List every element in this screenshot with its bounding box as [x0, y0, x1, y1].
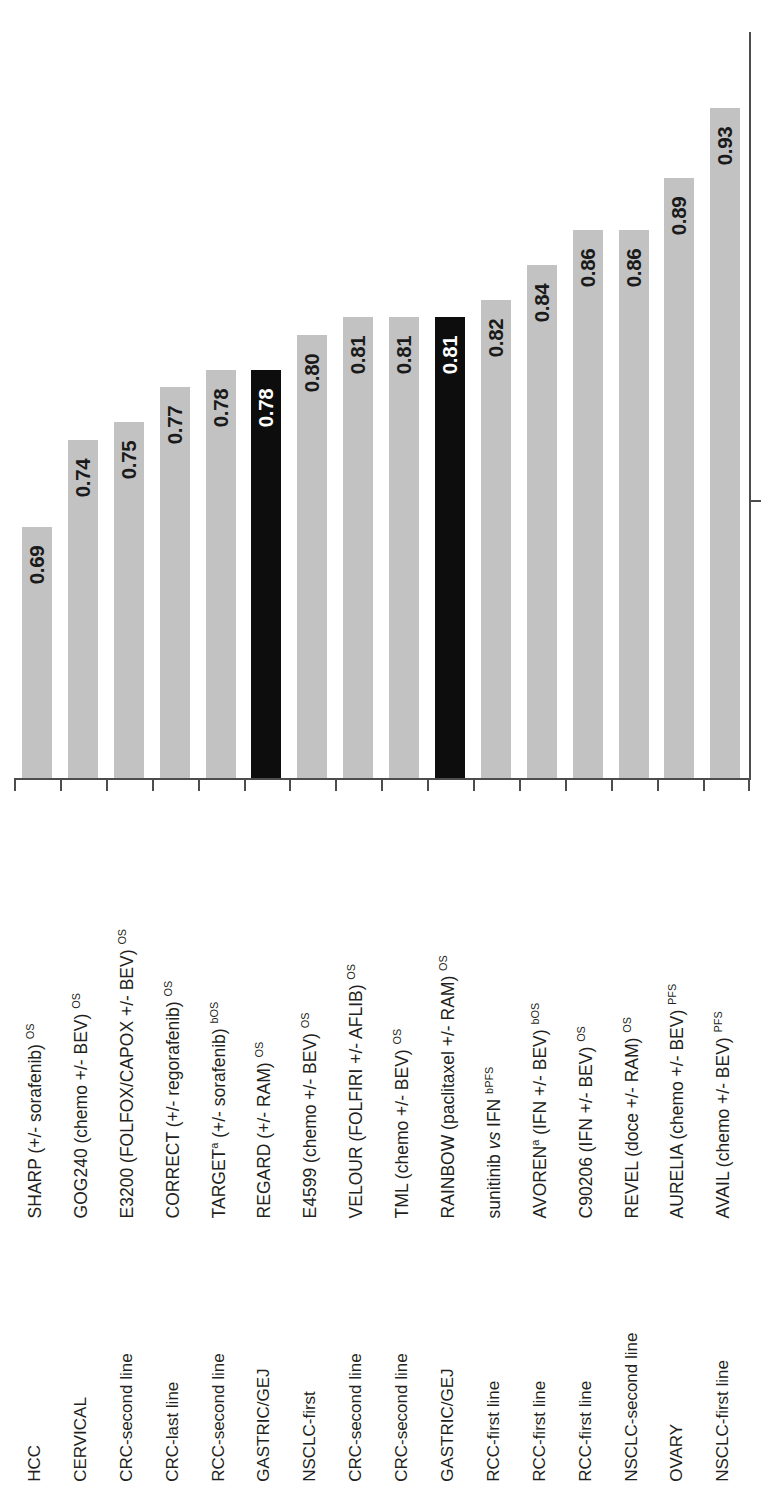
- axis-tick: [657, 780, 659, 791]
- bar[interactable]: 0.86: [619, 230, 649, 780]
- rotated-text-wrapper: HCC: [14, 1228, 60, 1486]
- hazard-ratio-bar-chart: 0.690.740.750.770.780.780.800.810.810.81…: [0, 0, 775, 1489]
- axis-tick: [748, 780, 750, 791]
- bar-highlighted[interactable]: 0.78: [251, 370, 281, 780]
- tumor-label-slot: NSCLC-first: [289, 1228, 335, 1486]
- bar-slot: 0.78: [198, 38, 244, 780]
- tumor-type-label: RCC-second line: [210, 1354, 228, 1483]
- rotated-text-wrapper: RAINBOW (paclitaxel +/- RAM) OS: [427, 792, 473, 1222]
- rotated-text-wrapper: RCC-second line: [198, 1228, 244, 1486]
- bar-value-label: 0.78: [209, 389, 233, 428]
- bar-value-label: 0.80: [300, 354, 324, 393]
- rotated-text-wrapper: NSCLC-first: [289, 1228, 335, 1486]
- bar-value-label: 0.93: [713, 127, 737, 166]
- bar[interactable]: 0.93: [710, 108, 740, 780]
- trial-label-slot: GOG240 (chemo +/- BEV) OS: [60, 792, 106, 1222]
- endpoint-marker: bOS: [529, 1002, 541, 1024]
- tumor-label-slot: CRC-second line: [335, 1228, 381, 1486]
- trial-label: GOG240 (chemo +/- BEV) OS: [72, 993, 90, 1218]
- footnote-marker: a: [529, 1139, 541, 1145]
- rotated-text-wrapper: SHARP (+/- sorafenib) OS: [14, 792, 60, 1222]
- rotated-text-wrapper: GASTRIC/GEJ: [243, 1228, 289, 1486]
- bar-value-label: 0.89: [667, 197, 691, 236]
- rotated-text-wrapper: REVEL (doce +/- RAM) OS: [611, 792, 657, 1222]
- bar[interactable]: 0.75: [114, 422, 144, 780]
- axis-tick: [703, 780, 705, 791]
- trial-label: AVAIL (chemo +/- BEV) PFS: [714, 1011, 732, 1218]
- rotated-text-wrapper: AVORENa (IFN +/- BEV) bOS: [519, 792, 565, 1222]
- trial-label-slot: RAINBOW (paclitaxel +/- RAM) OS: [427, 792, 473, 1222]
- rotated-text-wrapper: GOG240 (chemo +/- BEV) OS: [60, 792, 106, 1222]
- bar[interactable]: 0.80: [297, 335, 327, 780]
- trial-label-slot: TML (chemo +/- BEV) OS: [381, 792, 427, 1222]
- tumor-type-label: CRC-second line: [393, 1354, 411, 1483]
- tumor-label-slot: CRC-last line: [152, 1228, 198, 1486]
- rotated-text-wrapper: GASTRIC/GEJ: [427, 1228, 473, 1486]
- rotated-text-wrapper: AURELIA (chemo +/- BEV) PFS: [656, 792, 702, 1222]
- endpoint-marker: OS: [253, 1041, 265, 1057]
- value-axis-line: [749, 32, 751, 780]
- bar[interactable]: 0.69: [22, 527, 52, 780]
- trial-label-slot: REGARD (+/- RAM) OS: [243, 792, 289, 1222]
- rotated-text-wrapper: CORRECT (+/- regorafenib) OS: [152, 792, 198, 1222]
- value-axis-tick: [750, 500, 761, 502]
- tumor-label-slot: GASTRIC/GEJ: [243, 1228, 289, 1486]
- endpoint-marker: bPFS: [483, 1066, 495, 1093]
- bar-value-label: 0.84: [530, 284, 554, 323]
- bar[interactable]: 0.74: [68, 440, 98, 780]
- axis-tick: [106, 780, 108, 791]
- bar[interactable]: 0.81: [343, 317, 373, 780]
- rotated-text-wrapper: C90206 (IFN +/- BEV) OS: [565, 792, 611, 1222]
- tumor-type-label: RCC-first line: [531, 1381, 549, 1482]
- tumor-label-slot: HCC: [14, 1228, 60, 1486]
- trial-label: AURELIA (chemo +/- BEV) PFS: [668, 983, 686, 1218]
- trial-label-slot: SHARP (+/- sorafenib) OS: [14, 792, 60, 1222]
- trial-label-slot: sunitinib vs IFN bPFS: [473, 792, 519, 1222]
- axis-tick: [289, 780, 291, 791]
- bar-highlighted[interactable]: 0.81: [435, 317, 465, 780]
- trial-label: TML (chemo +/- BEV) OS: [393, 1028, 411, 1218]
- tumor-type-label: RCC-first line: [577, 1381, 595, 1482]
- endpoint-marker: PFS: [712, 1011, 724, 1032]
- bar[interactable]: 0.84: [527, 265, 557, 780]
- bar[interactable]: 0.89: [664, 178, 694, 780]
- bar[interactable]: 0.86: [573, 230, 603, 780]
- bar[interactable]: 0.78: [206, 370, 236, 780]
- rotated-text-wrapper: RCC-first line: [565, 1228, 611, 1486]
- endpoint-marker: OS: [437, 955, 449, 971]
- bar-slot: 0.81: [427, 38, 473, 780]
- trial-label-slot: REVEL (doce +/- RAM) OS: [611, 792, 657, 1222]
- bar-slot: 0.86: [565, 38, 611, 780]
- trial-label-slot: C90206 (IFN +/- BEV) OS: [565, 792, 611, 1222]
- tumor-label-slot: CERVICAL: [60, 1228, 106, 1486]
- axis-tick: [335, 780, 337, 791]
- bar-value-label: 0.78: [254, 389, 278, 428]
- tumor-label-slot: RCC-second line: [198, 1228, 244, 1486]
- rotated-text-wrapper: NSCLC-first line: [702, 1228, 748, 1486]
- bar-value-label: 0.86: [576, 249, 600, 288]
- tumor-label-slot: CRC-second line: [106, 1228, 152, 1486]
- trial-label: VELOUR (FOLFIRI +/- AFLIB) OS: [347, 964, 365, 1218]
- endpoint-marker: OS: [116, 929, 128, 945]
- tumor-type-label: HCC: [26, 1445, 44, 1482]
- bar-slot: 0.82: [473, 38, 519, 780]
- rotated-text-wrapper: NSCLC-second line: [611, 1228, 657, 1486]
- bar-value-label: 0.69: [25, 546, 49, 585]
- trial-label: E3200 (FOLFOX/CAPOX +/- BEV) OS: [117, 929, 135, 1218]
- bar[interactable]: 0.82: [481, 300, 511, 780]
- endpoint-marker: OS: [299, 1012, 311, 1028]
- tumor-type-label: NSCLC-first: [302, 1391, 320, 1482]
- category-axis-line: [14, 778, 750, 780]
- tumor-type-label: GASTRIC/GEJ: [439, 1369, 457, 1482]
- axis-tick: [152, 780, 154, 791]
- rotated-text-wrapper: TML (chemo +/- BEV) OS: [381, 792, 427, 1222]
- axis-tick: [381, 780, 383, 791]
- bar[interactable]: 0.81: [389, 317, 419, 780]
- rotated-text-wrapper: CRC-last line: [152, 1228, 198, 1486]
- bar-slot: 0.81: [381, 38, 427, 780]
- bar-slot: 0.75: [106, 38, 152, 780]
- trial-label-slot: TARGETa (+/- sorafenib) bOS: [198, 792, 244, 1222]
- bar[interactable]: 0.77: [160, 387, 190, 780]
- endpoint-marker: OS: [620, 1017, 632, 1033]
- trial-label-slot: CORRECT (+/- regorafenib) OS: [152, 792, 198, 1222]
